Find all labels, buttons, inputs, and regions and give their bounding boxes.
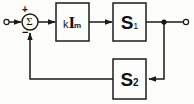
gain-block[interactable]: [56, 3, 89, 41]
output-tap-junction: [161, 19, 166, 24]
s2-block[interactable]: [113, 59, 146, 99]
output-terminal[interactable]: [183, 19, 188, 24]
wire-tap-to-s2: [149, 22, 164, 79]
input-terminal[interactable]: [4, 19, 9, 24]
block-diagram-graphics: [0, 0, 194, 104]
summing-junction[interactable]: [22, 14, 38, 30]
block-diagram-canvas: Σ + − kIm S1 S2: [0, 0, 194, 104]
s1-block[interactable]: [113, 3, 146, 41]
